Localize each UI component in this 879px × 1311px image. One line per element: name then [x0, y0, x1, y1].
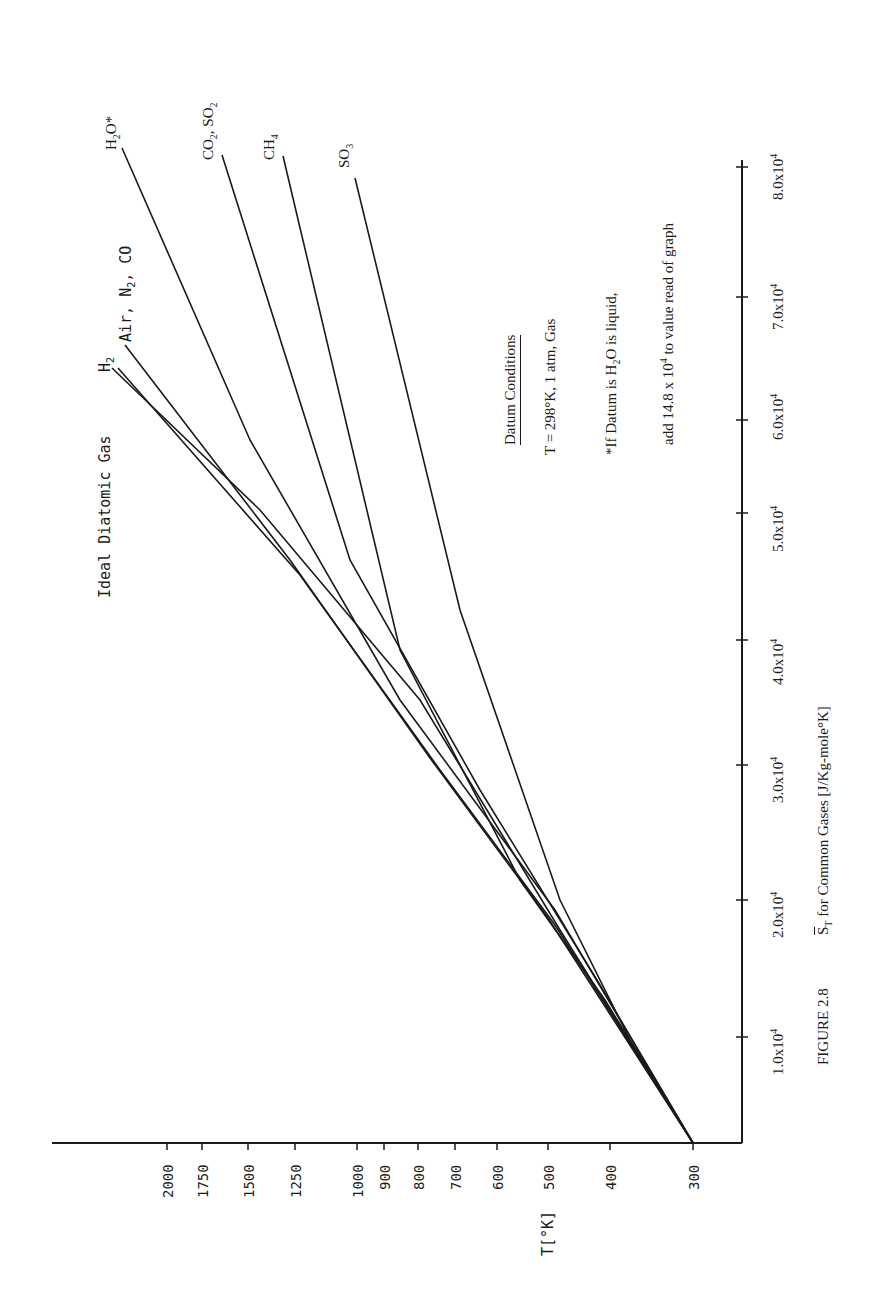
series-label-so3: SO3	[336, 144, 355, 168]
t-tick-label: 1250	[288, 1164, 304, 1198]
s-tick-label: 8.0x104	[768, 154, 787, 200]
series-label-air-n2-co: Air, N2, CO	[117, 246, 137, 342]
series-label-co2-so2: CO2, SO2	[200, 102, 219, 160]
t-ticks	[167, 1143, 693, 1150]
s-tick-label: 2.0x104	[768, 892, 787, 938]
series-co2-so2	[222, 155, 693, 1143]
t-tick-label: 2000	[160, 1164, 176, 1198]
figure-label: FIGURE 2.8	[815, 988, 832, 1065]
t-tick-label: 500	[541, 1165, 557, 1190]
t-tick-label: 600	[490, 1165, 506, 1190]
t-axis-label: T[°K]	[539, 1211, 557, 1256]
series-air-n2-co	[125, 345, 693, 1143]
t-tick-label: 400	[603, 1165, 619, 1190]
s-tick-label: 1.0x104	[768, 1029, 787, 1075]
t-tick-label: 1500	[241, 1164, 257, 1198]
series-label-h2o: H2O*	[103, 116, 122, 150]
series-ideal-diatomic-gas	[112, 368, 693, 1143]
figure-caption: ST for Common Gases [J/Kg-mole°K]	[815, 706, 834, 935]
datum-title: Datum Conditions	[502, 335, 521, 445]
s-tick-label: 5.0x104	[768, 506, 787, 552]
s-tick-label: 3.0x104	[768, 757, 787, 803]
series-h2	[118, 368, 693, 1143]
t-tick-label: 300	[686, 1165, 702, 1190]
datum-conditions: T = 298°K, 1 atm, Gas	[542, 319, 559, 455]
chart-canvas	[0, 0, 879, 1311]
s-bar-symbol: S	[815, 927, 831, 935]
series-ch4	[283, 156, 693, 1143]
t-tick-label: 900	[377, 1165, 393, 1190]
t-tick-label: 1750	[195, 1164, 211, 1198]
datum-note-add: add 14.8 x 104 to value read of graph	[658, 223, 677, 445]
series-label-h2: H2	[96, 357, 116, 372]
t-tick-label: 700	[448, 1165, 464, 1190]
s-tick-label: 6.0x104	[768, 394, 787, 440]
t-tick-label: 800	[411, 1165, 427, 1190]
t-tick-label: 1000	[350, 1164, 366, 1198]
datum-note-liquid: *If Datum is H2O is liquid,	[603, 293, 622, 456]
s-tick-label: 7.0x104	[768, 284, 787, 330]
series-label-ideal-diatomic-gas: Ideal Diatomic Gas	[96, 435, 114, 598]
series-label-ch4: CH4	[261, 134, 280, 160]
s-tick-label: 4.0x104	[768, 639, 787, 685]
